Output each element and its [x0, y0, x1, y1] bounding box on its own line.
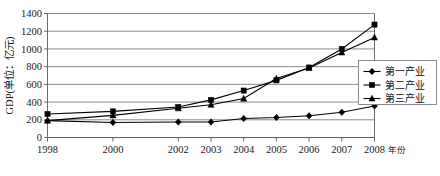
x-axis-tick-label: 2008 [364, 144, 385, 155]
y-axis-tick-label: 800 [26, 61, 42, 72]
y-axis-tick-label: 1000 [21, 44, 42, 55]
y-axis-tick-label: 0 [37, 132, 42, 143]
x-axis-unit-label: 年份 [388, 145, 406, 155]
y-axis-tick-label: 600 [26, 79, 42, 90]
data-point-diamond [306, 113, 312, 119]
x-axis-tick-label: 2003 [201, 144, 222, 155]
y-axis-tick-label: 1400 [21, 8, 42, 19]
y-axis-tick-label: 200 [26, 114, 42, 125]
data-point-diamond [241, 115, 247, 121]
chart-canvas: 0200400600800100012001400199820002002200… [0, 0, 440, 176]
x-axis-tick-label: 2007 [331, 144, 352, 155]
square-marker [369, 82, 374, 87]
legend-label-2: 第三产业 [385, 92, 425, 104]
x-axis-tick-label: 2004 [233, 144, 255, 155]
data-point-triangle [241, 95, 247, 101]
data-point-square [241, 88, 246, 93]
gdp-line-chart: 0200400600800100012001400199820002002200… [0, 0, 440, 176]
data-point-square [372, 22, 377, 27]
y-axis-title: GDP(单位：亿元) [3, 36, 16, 115]
y-axis-tick-label: 1200 [21, 26, 42, 37]
x-axis-tick-label: 2002 [168, 144, 189, 155]
x-axis-tick-label: 2005 [266, 144, 287, 155]
y-axis-tick-label: 400 [26, 97, 42, 108]
x-axis-tick-label: 1998 [37, 144, 58, 155]
series-line-第三产业 [48, 37, 375, 120]
x-axis-tick-label: 2000 [102, 144, 123, 155]
legend-label-1: 第二产业 [385, 79, 425, 91]
legend-label-0: 第一产业 [385, 65, 425, 77]
data-point-square [45, 111, 50, 116]
data-point-triangle [371, 34, 377, 40]
x-axis-tick-label: 2006 [299, 144, 320, 155]
data-point-diamond [339, 109, 345, 115]
